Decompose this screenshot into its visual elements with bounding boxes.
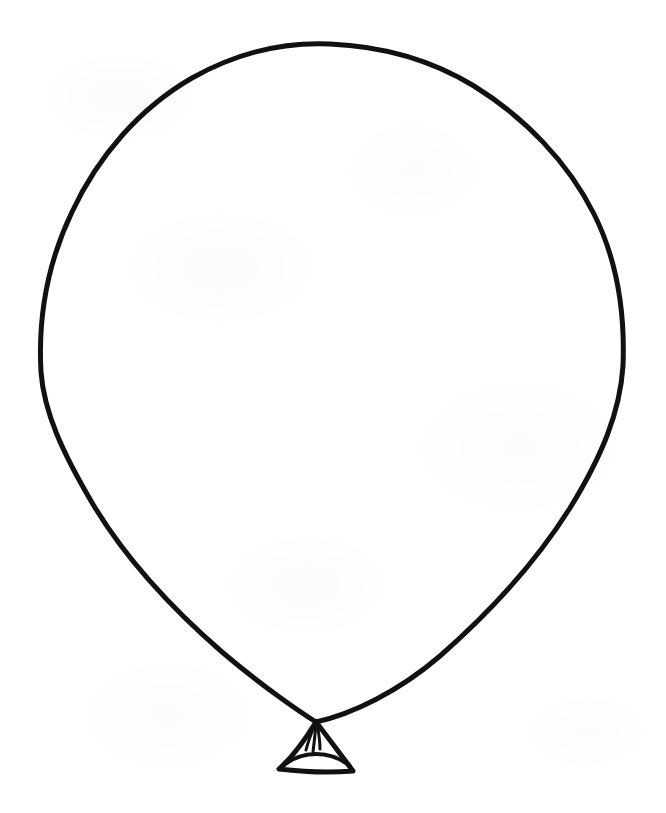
- balloon-body-outline: [40, 44, 623, 722]
- drawing-canvas: Balloon outline Simple black outline dra…: [0, 0, 666, 813]
- ink-layer: [40, 44, 623, 772]
- balloon-drawing: Balloon outline Simple black outline dra…: [0, 0, 666, 813]
